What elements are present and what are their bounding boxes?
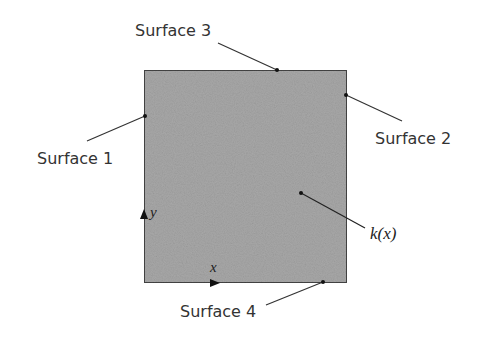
surface1-label: Surface 1: [37, 149, 113, 168]
x-axis-label: x: [210, 259, 217, 276]
diagram-canvas: [0, 0, 486, 340]
surface3-label: Surface 3: [135, 21, 211, 40]
domain-square: [144, 70, 347, 283]
leader-surface1: [87, 114, 147, 141]
y-axis-label: y: [150, 204, 157, 221]
leader-surface2: [344, 93, 402, 121]
conductivity-label: k(x): [370, 224, 396, 244]
surface4-label: Surface 4: [180, 302, 256, 321]
surface2-label: Surface 2: [375, 129, 451, 148]
leader-surface3: [218, 43, 279, 72]
